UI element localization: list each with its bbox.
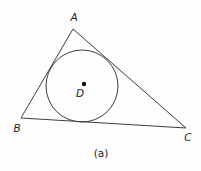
vertex-label-c: C <box>184 131 192 143</box>
triangle-outline <box>21 29 186 128</box>
incenter-label-d: D <box>76 87 84 99</box>
figure-caption: (a) <box>94 147 109 159</box>
incenter-dot <box>82 82 86 86</box>
geometry-figure: A B C D (a) <box>0 0 201 171</box>
vertex-label-a: A <box>69 11 77 23</box>
vertex-label-b: B <box>13 122 20 134</box>
incircle-diagram: A B C D (a) <box>0 0 201 171</box>
inscribed-circle <box>46 50 118 122</box>
